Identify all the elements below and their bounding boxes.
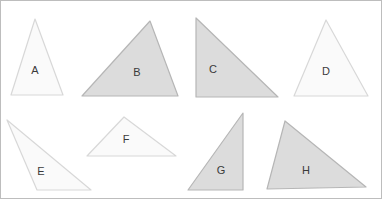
triangle-g-label: G [217,164,226,176]
triangles-figure: A B C D E F G H [0,0,382,199]
figure-canvas: A B C D E F G H [0,0,382,199]
triangle-f-label: F [123,133,130,145]
triangle-d-label: D [322,65,330,77]
triangle-e-label: E [37,165,44,177]
triangle-h-label: H [302,164,310,176]
triangle-b-label: B [133,66,140,78]
triangle-a-label: A [31,64,39,76]
triangle-c-label: C [209,63,217,75]
